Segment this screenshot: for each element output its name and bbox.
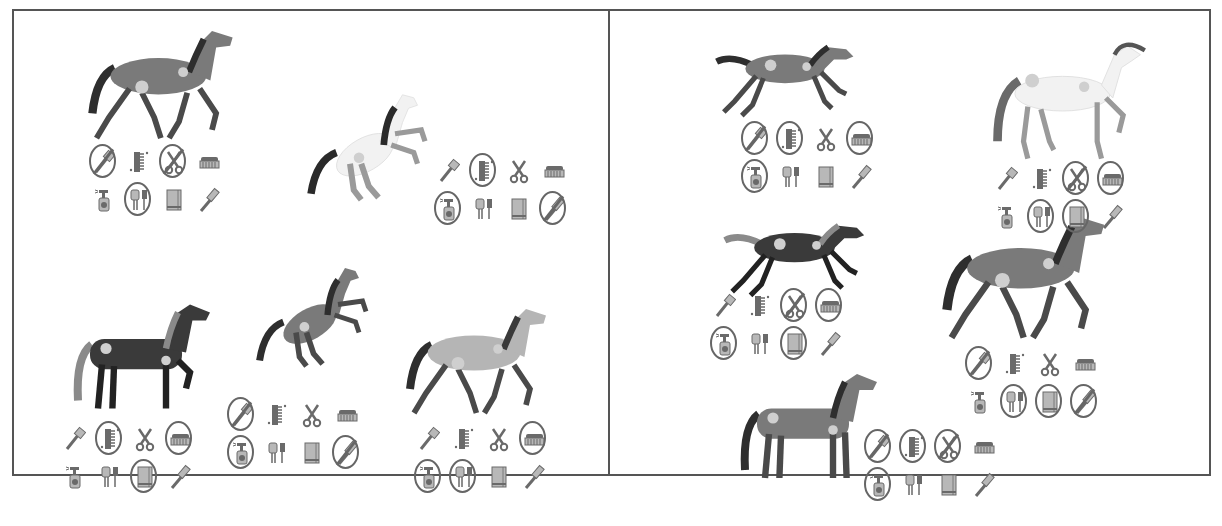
hoof-pick-brush-icon[interactable] xyxy=(739,120,772,158)
horse-illustration xyxy=(240,225,380,405)
scissors-icon[interactable] xyxy=(128,420,161,458)
curry-brush-icon[interactable] xyxy=(844,120,877,158)
towel-icon[interactable] xyxy=(482,458,515,496)
towel-icon[interactable] xyxy=(778,325,811,363)
horse-illustration xyxy=(398,297,558,425)
horse-illustration xyxy=(725,348,885,496)
spray-bottle-icon[interactable] xyxy=(87,181,120,219)
grooming-tool-group xyxy=(87,143,225,219)
scissors-icon[interactable] xyxy=(295,396,328,434)
horse-illustration xyxy=(58,280,218,425)
horse-illustration xyxy=(290,65,440,225)
hoof-pick-brush-icon[interactable] xyxy=(990,160,1023,198)
dandy-brush-icon[interactable] xyxy=(1068,383,1101,421)
curry-brush-icon[interactable] xyxy=(163,420,196,458)
hand-brush-set-icon[interactable] xyxy=(260,434,293,472)
comb-icon[interactable] xyxy=(774,120,807,158)
towel-icon[interactable] xyxy=(295,434,328,472)
hand-brush-set-icon[interactable] xyxy=(447,458,480,496)
dandy-brush-icon[interactable] xyxy=(813,325,846,363)
towel-icon[interactable] xyxy=(1033,383,1066,421)
horse-illustration xyxy=(695,22,875,130)
spray-bottle-icon[interactable] xyxy=(432,190,465,228)
grooming-tool-group xyxy=(432,152,570,228)
comb-icon[interactable] xyxy=(122,143,155,181)
comb-icon[interactable] xyxy=(93,420,126,458)
towel-icon[interactable] xyxy=(502,190,535,228)
spray-bottle-icon[interactable] xyxy=(58,458,91,496)
horse-illustration xyxy=(80,22,245,147)
dandy-brush-icon[interactable] xyxy=(517,458,550,496)
hoof-pick-brush-icon[interactable] xyxy=(963,345,996,383)
curry-brush-icon[interactable] xyxy=(517,420,550,458)
comb-icon[interactable] xyxy=(998,345,1031,383)
grooming-tool-group xyxy=(58,420,196,496)
dandy-brush-icon[interactable] xyxy=(330,434,363,472)
scissors-icon[interactable] xyxy=(502,152,535,190)
hand-brush-set-icon[interactable] xyxy=(93,458,126,496)
dandy-brush-icon[interactable] xyxy=(192,181,225,219)
spray-bottle-icon[interactable] xyxy=(225,434,258,472)
grooming-tool-group xyxy=(225,396,363,472)
comb-icon[interactable] xyxy=(743,287,776,325)
hoof-pick-brush-icon[interactable] xyxy=(432,152,465,190)
grooming-tool-group xyxy=(739,120,877,196)
comb-icon[interactable] xyxy=(447,420,480,458)
scissors-icon[interactable] xyxy=(1033,345,1066,383)
hoof-pick-brush-icon[interactable] xyxy=(58,420,91,458)
scissors-icon[interactable] xyxy=(482,420,515,458)
dandy-brush-icon[interactable] xyxy=(163,458,196,496)
hoof-pick-brush-icon[interactable] xyxy=(87,143,120,181)
spray-bottle-icon[interactable] xyxy=(862,466,895,504)
curry-brush-icon[interactable] xyxy=(192,143,225,181)
comb-icon[interactable] xyxy=(897,428,930,466)
curry-brush-icon[interactable] xyxy=(330,396,363,434)
grooming-tool-group xyxy=(862,428,1000,504)
comb-icon[interactable] xyxy=(467,152,500,190)
scissors-icon[interactable] xyxy=(809,120,842,158)
curry-brush-icon[interactable] xyxy=(813,287,846,325)
horse-illustration xyxy=(975,33,1150,163)
comb-icon[interactable] xyxy=(260,396,293,434)
towel-icon[interactable] xyxy=(157,181,190,219)
hand-brush-set-icon[interactable] xyxy=(743,325,776,363)
curry-brush-icon[interactable] xyxy=(1095,160,1128,198)
hoof-pick-brush-icon[interactable] xyxy=(225,396,258,434)
dandy-brush-icon[interactable] xyxy=(537,190,570,228)
hoof-pick-brush-icon[interactable] xyxy=(862,428,895,466)
curry-brush-icon[interactable] xyxy=(967,428,1000,466)
spray-bottle-icon[interactable] xyxy=(708,325,741,363)
towel-icon[interactable] xyxy=(932,466,965,504)
hoof-pick-brush-icon[interactable] xyxy=(412,420,445,458)
grooming-tool-group xyxy=(963,345,1101,421)
scissors-icon[interactable] xyxy=(778,287,811,325)
hand-brush-set-icon[interactable] xyxy=(897,466,930,504)
spray-bottle-icon[interactable] xyxy=(990,198,1023,236)
dandy-brush-icon[interactable] xyxy=(1095,198,1128,236)
hand-brush-set-icon[interactable] xyxy=(467,190,500,228)
hand-brush-set-icon[interactable] xyxy=(998,383,1031,421)
dandy-brush-icon[interactable] xyxy=(844,158,877,196)
scissors-icon[interactable] xyxy=(1060,160,1093,198)
towel-icon[interactable] xyxy=(1060,198,1093,236)
spray-bottle-icon[interactable] xyxy=(963,383,996,421)
comb-icon[interactable] xyxy=(1025,160,1058,198)
grooming-tool-group xyxy=(708,287,846,363)
scissors-icon[interactable] xyxy=(932,428,965,466)
grooming-tool-group xyxy=(990,160,1128,236)
hand-brush-set-icon[interactable] xyxy=(122,181,155,219)
curry-brush-icon[interactable] xyxy=(1068,345,1101,383)
hand-brush-set-icon[interactable] xyxy=(774,158,807,196)
grooming-tool-group xyxy=(412,420,550,496)
hand-brush-set-icon[interactable] xyxy=(1025,198,1058,236)
towel-icon[interactable] xyxy=(128,458,161,496)
scissors-icon[interactable] xyxy=(157,143,190,181)
dandy-brush-icon[interactable] xyxy=(967,466,1000,504)
hoof-pick-brush-icon[interactable] xyxy=(708,287,741,325)
curry-brush-icon[interactable] xyxy=(537,152,570,190)
spray-bottle-icon[interactable] xyxy=(412,458,445,496)
towel-icon[interactable] xyxy=(809,158,842,196)
spray-bottle-icon[interactable] xyxy=(739,158,772,196)
